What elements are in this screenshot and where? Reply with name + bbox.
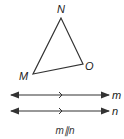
vertex-label-n: N (57, 3, 65, 15)
line-m: m (11, 89, 121, 101)
vertex-label-o: O (85, 60, 94, 72)
triangle-mno: N M O (19, 3, 94, 82)
line-label-m: m (112, 89, 121, 101)
line-label-n: n (112, 105, 118, 117)
diagram: N M O m n m∥n (0, 0, 124, 139)
line-n: n (11, 105, 118, 117)
parallel-caption: m∥n (56, 125, 75, 137)
vertex-label-m: M (19, 70, 29, 82)
